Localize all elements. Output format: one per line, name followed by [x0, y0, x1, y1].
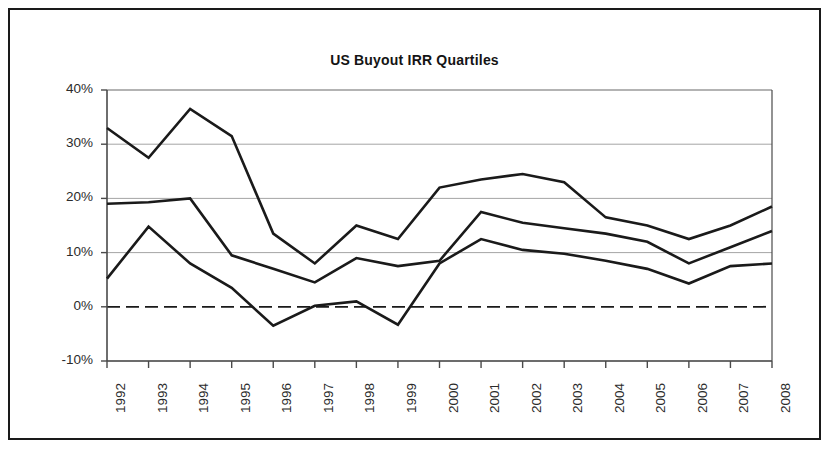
x-tick-label-1993: 1993: [155, 383, 170, 413]
x-tick-label-2005: 2005: [653, 383, 668, 413]
x-tick-label-1995: 1995: [238, 383, 253, 413]
gridlines-group: [107, 90, 772, 361]
x-tick-label-1994: 1994: [196, 383, 211, 413]
x-tick-label-2000: 2000: [446, 383, 461, 413]
y-tick-label-0: 0%: [73, 298, 93, 313]
x-tick-label-1998: 1998: [362, 383, 377, 413]
y-tick-label-10: 10%: [66, 244, 93, 259]
series-lines-group: [107, 109, 772, 326]
screenshot-root: US Buyout IRR Quartiles 40%30%20%10%0%-1…: [0, 0, 833, 454]
x-tick-label-2003: 2003: [570, 383, 585, 413]
x-tick-label-2004: 2004: [612, 383, 627, 413]
x-tick-label-2002: 2002: [529, 383, 544, 413]
x-tick-label-1992: 1992: [113, 383, 128, 413]
y-tick-label-40: 40%: [66, 81, 93, 96]
figure-frame: US Buyout IRR Quartiles 40%30%20%10%0%-1…: [8, 8, 821, 440]
x-tick-label-2006: 2006: [695, 383, 710, 413]
x-tick-label-2007: 2007: [736, 383, 751, 413]
y-tick-label--10: -10%: [61, 352, 93, 367]
x-tick-label-2008: 2008: [778, 383, 793, 413]
x-tick-label-1996: 1996: [279, 383, 294, 413]
x-tick-label-1999: 1999: [404, 383, 419, 413]
chart-plot-area: [10, 10, 823, 442]
axis-ticks-group: [101, 90, 772, 368]
series-line-0: [107, 109, 772, 263]
x-tick-label-2001: 2001: [487, 383, 502, 413]
x-tick-label-1997: 1997: [321, 383, 336, 413]
series-line-2: [107, 227, 772, 326]
series-line-1: [107, 198, 772, 282]
axis-lines-group: [107, 90, 772, 361]
y-tick-label-20: 20%: [66, 189, 93, 204]
y-tick-label-30: 30%: [66, 135, 93, 150]
